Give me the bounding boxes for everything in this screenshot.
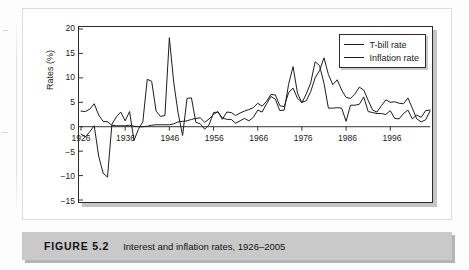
x-axis-tick-label: 1956 [205, 133, 224, 143]
x-axis-tick-label: 1946 [160, 133, 179, 143]
legend-line-icon [344, 44, 364, 45]
y-axis-title: Rates (%) [45, 25, 55, 115]
x-axis-tick-label: 1936 [116, 133, 135, 143]
page-margin-rule [16, 18, 17, 214]
y-axis-tick-label: −5 [51, 147, 75, 157]
page-background: 20151050−5−10−15 T-bill rate Inflation r… [0, 0, 469, 270]
legend-item-inflation: Inflation rate [344, 51, 419, 64]
x-axis-tick-label: 1976 [294, 133, 313, 143]
figure-caption-bar: FIGURE 5.2 Interest and inflation rates,… [22, 232, 452, 260]
x-axis-tick-label: 1926 [72, 133, 91, 143]
y-axis-tick-label: −10 [51, 171, 75, 181]
x-axis-tick-label: 1966 [249, 133, 268, 143]
legend-line-icon [344, 57, 364, 58]
y-axis-tick-label: 0 [51, 122, 75, 132]
page-margin-artifact [2, 132, 8, 133]
figure-number: FIGURE 5.2 [44, 240, 109, 252]
figure-caption-text: Interest and inflation rates, 1926–2005 [123, 241, 285, 252]
x-axis-tick-label: 1986 [338, 133, 357, 143]
page-margin-artifact [3, 30, 8, 31]
legend-item-tbill: T-bill rate [344, 38, 419, 51]
chart-legend: T-bill rate Inflation rate [339, 34, 426, 68]
legend-label-tbill: T-bill rate [369, 40, 406, 50]
y-axis-tick-label: −15 [51, 196, 75, 206]
legend-label-inflation: Inflation rate [369, 53, 419, 63]
x-axis-tick-label: 1996 [383, 133, 402, 143]
plot-area: T-bill rate Inflation rate 1926193619461… [78, 26, 433, 203]
figure-card: 20151050−5−10−15 T-bill rate Inflation r… [22, 8, 452, 220]
